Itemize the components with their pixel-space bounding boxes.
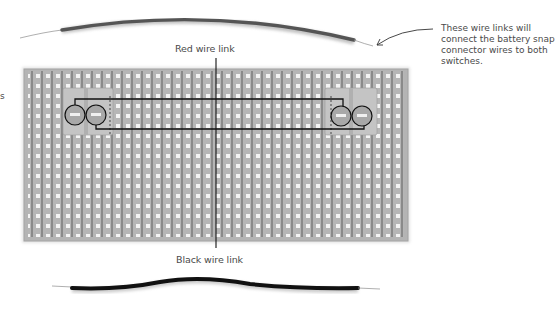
cropped-text: s: [0, 91, 5, 101]
black-wire-link: [52, 279, 380, 290]
switch-right: [325, 88, 377, 135]
switch-left: [63, 88, 113, 135]
red-wire-label: Red wire link: [175, 43, 235, 54]
black-wire-label: Black wire link: [176, 254, 243, 265]
annotation-arrow: [377, 29, 433, 45]
annotation-text: These wire links will connect the batter…: [441, 23, 559, 67]
